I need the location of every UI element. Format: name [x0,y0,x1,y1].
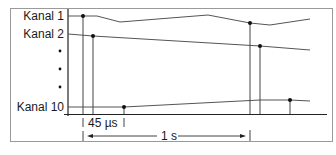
signal-kanal-10 [68,100,310,107]
label-kanal-10: Kanal 10 [17,100,65,114]
label-kanal-1: Kanal 1 [23,9,64,23]
offset-annotation: 45 µs [83,116,124,130]
sampling-diagram: Kanal 1 Kanal 2 Kanal 10 45 µs [0,0,336,155]
signal-kanal-1 [68,15,310,25]
signal-kanal-2 [68,34,310,50]
period-annotation: 1 s [83,129,250,143]
period-label: 1 s [161,129,177,143]
offset-label: 45 µs [88,116,118,130]
label-kanal-2: Kanal 2 [23,27,64,41]
ellipsis-dots [59,50,62,89]
sample-stems [83,16,290,114]
